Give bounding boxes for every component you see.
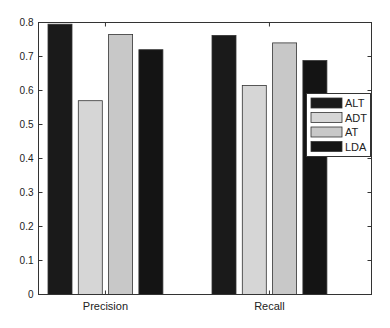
y-tick-label: 0 [28, 289, 34, 300]
y-tick-label: 0.8 [20, 17, 34, 28]
legend-swatch-alt [311, 98, 342, 108]
legend-swatch-lda [311, 142, 342, 152]
legend-label-adt: ADT [345, 112, 367, 124]
legend-label-lda: LDA [345, 141, 367, 153]
bar-alt-precision [48, 24, 72, 294]
y-tick-label: 0.5 [20, 119, 34, 130]
y-tick-label: 0.1 [20, 255, 34, 266]
legend-label-alt: ALT [345, 97, 365, 109]
legend-swatch-at [311, 127, 342, 137]
x-category-label: Recall [254, 300, 285, 312]
bar-chart: 00.10.20.30.40.50.60.70.8 PrecisionRecal… [0, 0, 390, 328]
y-tick-label: 0.3 [20, 187, 34, 198]
bar-adt-recall [242, 85, 266, 294]
bars-group [48, 24, 327, 294]
bar-alt-recall [212, 35, 236, 294]
y-tick-label: 0.7 [20, 51, 34, 62]
legend-label-at: AT [345, 126, 359, 138]
y-tick-label: 0.6 [20, 85, 34, 96]
y-tick-label: 0.2 [20, 221, 34, 232]
legend-swatch-adt [311, 113, 342, 123]
bar-lda-precision [139, 50, 163, 295]
legend: ALTADTATLDA [307, 94, 371, 157]
y-tick-label: 0.4 [20, 153, 34, 164]
bar-adt-precision [78, 101, 102, 295]
bar-at-recall [273, 43, 297, 295]
bar-at-precision [109, 34, 133, 294]
x-category-label: Precision [83, 300, 128, 312]
